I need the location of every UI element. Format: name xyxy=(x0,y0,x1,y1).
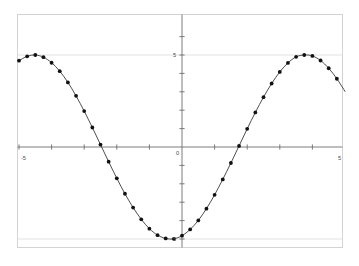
data-point-marker xyxy=(302,53,306,57)
data-point-marker xyxy=(25,54,29,58)
x-tick-label-min: -5 xyxy=(21,155,26,161)
data-point-marker xyxy=(66,81,70,85)
data-point-marker xyxy=(196,219,200,223)
data-point-marker xyxy=(213,193,217,197)
data-point-marker xyxy=(107,160,111,164)
data-point-marker xyxy=(319,59,323,63)
plot-figure: -5 5 5 -5 0 xyxy=(0,0,359,266)
plot-canvas: -5 5 5 -5 0 xyxy=(0,0,359,266)
data-point-marker xyxy=(270,82,274,86)
data-point-marker xyxy=(58,69,62,73)
figure-background xyxy=(0,0,359,266)
data-point-marker xyxy=(205,207,209,211)
data-point-marker xyxy=(245,127,249,131)
data-point-marker xyxy=(327,66,331,70)
data-point-marker xyxy=(311,54,315,58)
origin-label: 0 xyxy=(176,150,179,156)
data-point-marker xyxy=(262,95,266,99)
data-point-marker xyxy=(164,237,168,241)
data-point-marker xyxy=(286,61,290,65)
x-tick-label-max: 5 xyxy=(338,155,341,161)
data-point-marker xyxy=(188,228,192,232)
data-point-marker xyxy=(156,233,160,237)
data-point-marker xyxy=(82,109,86,113)
data-point-marker xyxy=(74,94,78,98)
data-point-marker xyxy=(148,227,152,231)
data-point-marker xyxy=(253,111,257,115)
data-point-marker xyxy=(335,77,339,81)
data-point-marker xyxy=(123,192,127,196)
data-point-marker xyxy=(99,143,103,147)
data-point-marker xyxy=(33,53,37,57)
data-point-marker xyxy=(42,55,46,59)
y-tick-label-max: 5 xyxy=(173,52,176,58)
data-point-marker xyxy=(17,59,21,63)
data-point-marker xyxy=(229,161,233,165)
data-point-marker xyxy=(180,234,184,238)
data-point-marker xyxy=(294,55,298,59)
data-point-marker xyxy=(90,126,94,130)
data-point-marker xyxy=(221,177,225,181)
data-point-marker xyxy=(50,61,54,65)
data-point-marker xyxy=(278,70,282,74)
data-point-marker xyxy=(139,217,143,221)
y-tick-label-min: -5 xyxy=(171,236,176,242)
data-point-marker xyxy=(115,176,119,180)
data-point-marker xyxy=(237,144,241,148)
data-point-marker xyxy=(131,206,135,210)
